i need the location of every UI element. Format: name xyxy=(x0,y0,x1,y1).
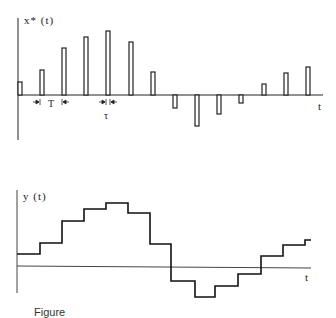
sample-pulse xyxy=(217,95,221,114)
sample-pulse xyxy=(151,72,155,95)
sample-pulse xyxy=(129,42,133,95)
pulse-width-label: τ xyxy=(104,110,109,121)
sample-pulse xyxy=(40,70,44,95)
bottom-x-axis-label: t xyxy=(305,271,309,283)
figure-caption: Figure xyxy=(34,306,65,318)
period-label: T xyxy=(48,98,55,109)
period-dimension-markers xyxy=(33,99,117,105)
bottom-y-axis-label: y (t) xyxy=(23,190,47,202)
staircase-output-curve xyxy=(17,203,311,297)
sample-pulse xyxy=(106,31,110,95)
sample-pulse xyxy=(284,73,288,95)
sample-pulse xyxy=(239,95,243,103)
top-y-axis-label: x* (t) xyxy=(24,14,54,26)
sample-pulse xyxy=(84,37,88,95)
sample-pulse xyxy=(18,82,22,95)
sample-pulse xyxy=(306,67,310,95)
bottom-plot-axes xyxy=(17,190,311,293)
sample-pulse xyxy=(195,95,199,126)
sample-pulse xyxy=(62,48,66,95)
sample-pulse xyxy=(173,95,177,108)
top-plot-pulses xyxy=(18,31,310,126)
sample-pulse xyxy=(262,84,266,95)
top-x-axis-label: t xyxy=(318,100,322,112)
